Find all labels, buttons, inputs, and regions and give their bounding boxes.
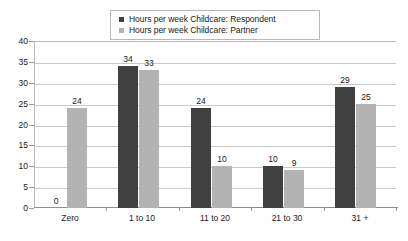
x-tick-mark bbox=[106, 208, 107, 211]
x-tick-label: 1 to 10 bbox=[106, 213, 178, 223]
bar-value-label: 33 bbox=[133, 59, 165, 68]
bar-value-label: 25 bbox=[350, 93, 382, 102]
y-tick-mark bbox=[29, 125, 34, 126]
y-tick-mark bbox=[29, 83, 34, 84]
bar-value-label: 10 bbox=[206, 155, 238, 164]
bar-chart: Hours per week Childcare: Respondent Hou… bbox=[0, 0, 408, 241]
x-tick-mark bbox=[396, 208, 397, 211]
y-tick-label: 20 bbox=[4, 121, 28, 130]
x-tick-label: Zero bbox=[34, 213, 106, 223]
bar-partner bbox=[212, 166, 232, 208]
bar-respondent bbox=[263, 166, 283, 208]
y-tick-mark bbox=[29, 166, 34, 167]
chart-legend: Hours per week Childcare: Respondent Hou… bbox=[110, 10, 320, 40]
y-tick-mark bbox=[29, 62, 34, 63]
y-tick-label: 0 bbox=[4, 204, 28, 213]
y-tick-mark bbox=[29, 145, 34, 146]
bar-partner bbox=[356, 104, 376, 208]
y-tick-label: 30 bbox=[4, 79, 28, 88]
bar-partner bbox=[67, 108, 87, 208]
legend-swatch-respondent bbox=[119, 17, 124, 22]
bars-layer: 024343324101092925 bbox=[34, 41, 398, 208]
bar-partner bbox=[139, 70, 159, 208]
x-tick-label: 21 to 30 bbox=[251, 213, 323, 223]
y-tick-mark bbox=[29, 104, 34, 105]
y-axis: 4035302520151050 bbox=[0, 0, 28, 241]
y-tick-label: 10 bbox=[4, 162, 28, 171]
y-tick-label: 35 bbox=[4, 58, 28, 67]
bar-value-label: 9 bbox=[278, 159, 310, 168]
x-tick-mark bbox=[179, 208, 180, 211]
y-tick-mark bbox=[29, 187, 34, 188]
y-tick-mark bbox=[29, 41, 34, 42]
y-tick-label: 5 bbox=[4, 183, 28, 192]
legend-label-respondent: Hours per week Childcare: Respondent bbox=[129, 14, 276, 25]
y-tick-label: 15 bbox=[4, 141, 28, 150]
x-tick-label: 11 to 20 bbox=[179, 213, 251, 223]
x-tick-mark bbox=[324, 208, 325, 211]
x-tick-label: 31 + bbox=[324, 213, 396, 223]
bar-partner bbox=[284, 170, 304, 208]
legend-swatch-partner bbox=[119, 28, 124, 33]
bar-respondent bbox=[335, 87, 355, 208]
y-tick-label: 25 bbox=[4, 100, 28, 109]
bar-value-label: 24 bbox=[61, 97, 93, 106]
legend-label-partner: Hours per week Childcare: Partner bbox=[129, 25, 258, 36]
x-tick-mark bbox=[251, 208, 252, 211]
bar-value-label: 24 bbox=[185, 97, 217, 106]
legend-item-respondent: Hours per week Childcare: Respondent bbox=[119, 14, 313, 25]
bar-respondent bbox=[118, 66, 138, 208]
bar-value-label: 29 bbox=[329, 76, 361, 85]
y-tick-mark bbox=[29, 208, 34, 209]
y-tick-label: 40 bbox=[4, 37, 28, 46]
legend-item-partner: Hours per week Childcare: Partner bbox=[119, 25, 313, 36]
